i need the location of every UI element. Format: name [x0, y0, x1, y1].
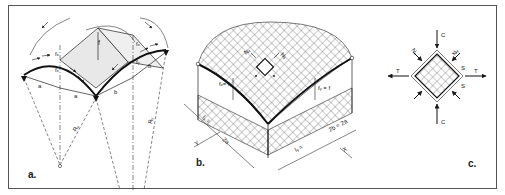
label-a2: a	[74, 93, 78, 99]
axis-y-label: Y	[194, 140, 200, 147]
diagram-figure: f fₓ fₓ fₓ fᵧ a a b b Rₓ Rᵧ a. N	[0, 0, 505, 195]
force-Nx: Nₓ	[410, 47, 419, 56]
label-f: f	[98, 39, 100, 46]
label-fx-mid: fₓ	[55, 67, 59, 73]
force-C-bottom: C	[441, 119, 446, 125]
force-S-lower: S	[461, 83, 465, 89]
label-ly-eq: lᵧ =	[294, 143, 305, 152]
panel-a-label: a.	[28, 169, 37, 180]
label-fx-top: fₓ	[55, 51, 59, 57]
force-T-left: T	[396, 68, 400, 74]
panel-b: Nₓ Nᵧ fₓ= f fᵧ = f lₓ = 2a Y lᵧ = 2b = 2…	[184, 22, 356, 170]
force-T-right: T	[474, 68, 478, 74]
label-fx-right: fₓ	[136, 41, 140, 47]
panel-b-label: b.	[196, 157, 205, 168]
label-b1: b	[114, 89, 118, 95]
label-Rx: Rₓ	[72, 124, 80, 132]
panel-a: f fₓ fₓ fₓ fᵧ a a b b Rₓ Rᵧ a.	[21, 18, 169, 190]
label-2a: 2a	[221, 136, 230, 145]
panel-c-label: c.	[468, 158, 477, 169]
label-fy: fᵧ	[136, 59, 140, 65]
axis-x-label: X	[342, 146, 348, 153]
label-a1: a	[38, 83, 42, 89]
force-S-upper: S	[461, 65, 465, 71]
label-fy-eq-f: fᵧ = f	[318, 85, 330, 91]
force-C-top: C	[441, 32, 446, 38]
panel-c: C C T T Nₓ Nᵧ S S c.	[388, 30, 486, 169]
label-fx-eq-f: fₓ= f	[219, 81, 230, 87]
label-Ry: Rᵧ	[147, 117, 154, 124]
